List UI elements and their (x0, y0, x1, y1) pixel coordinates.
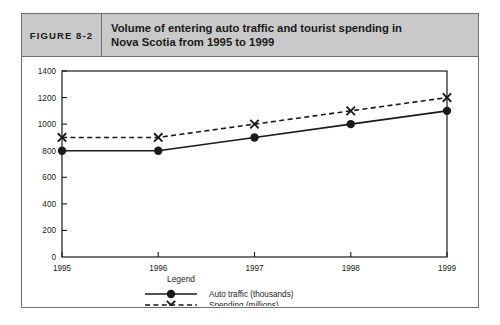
y-axis-tick-label: 1200 (38, 94, 57, 103)
x-axis-tick-label: 1999 (438, 264, 457, 273)
figure-body: 0200400600800100012001400 19951996199719… (22, 57, 478, 307)
data-point-marker (154, 147, 162, 155)
y-axis-tick-label: 400 (42, 200, 56, 209)
data-point-marker (58, 147, 66, 155)
figure-label-cell: FIGURE 8-2 (22, 14, 102, 56)
chart-legend: LegendAuto traffic (thousands)Spending (… (145, 274, 294, 306)
x-axis-tick-label: 1998 (342, 264, 361, 273)
legend-item: Auto traffic (thousands) (145, 290, 294, 299)
y-axis-tick-label: 800 (42, 147, 56, 156)
data-point-marker (443, 107, 451, 115)
y-axis-tick-label: 1400 (38, 67, 57, 76)
figure-screenshot: FIGURE 8-2 Volume of entering auto traff… (0, 0, 500, 325)
x-axis-tick-label: 1997 (245, 264, 264, 273)
y-axis-tick-label: 0 (51, 253, 56, 262)
figure-title: Volume of entering auto traffic and tour… (111, 21, 402, 50)
line-chart: 0200400600800100012001400 19951996199719… (22, 57, 478, 306)
figure-number-label: FIGURE 8-2 (30, 30, 93, 41)
legend-title: Legend (167, 274, 195, 284)
figure-title-line-2: Nova Scotia from 1995 to 1999 (111, 36, 274, 48)
data-point-marker (250, 133, 258, 141)
legend-item-label: Auto traffic (thousands) (209, 290, 294, 299)
y-axis-tick-label: 600 (42, 173, 56, 182)
legend-item-label: Spending (millions) (209, 301, 279, 306)
data-point-marker (347, 120, 355, 128)
y-axis-tick-label: 1000 (38, 120, 57, 129)
figure-title-cell: Volume of entering auto traffic and tour… (102, 14, 478, 56)
legend-item: Spending (millions) (145, 301, 279, 306)
figure-header: FIGURE 8-2 Volume of entering auto traff… (22, 14, 478, 57)
legend-marker-circle (167, 290, 175, 298)
y-axis-tick-label: 200 (42, 226, 56, 235)
figure-title-line-1: Volume of entering auto traffic and tour… (111, 22, 402, 34)
plot-area-border (62, 71, 447, 257)
x-axis-tick-label: 1996 (149, 264, 168, 273)
x-axis-tick-label: 1995 (53, 264, 72, 273)
figure-frame: FIGURE 8-2 Volume of entering auto traff… (21, 13, 479, 308)
